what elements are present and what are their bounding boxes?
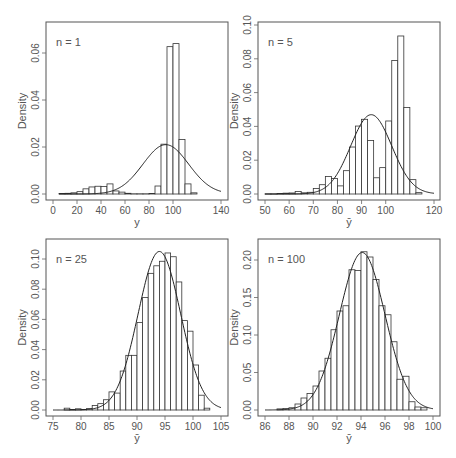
histogram-bar — [404, 107, 410, 194]
sample-size-annotation: n = 25 — [56, 253, 87, 265]
histogram-bar — [380, 168, 386, 194]
sample-size-annotation: n = 1 — [56, 36, 81, 48]
histogram-bar — [416, 193, 422, 194]
histogram-bar — [187, 331, 193, 410]
y-tick-label: 0.06 — [242, 82, 253, 102]
y-tick-label: 0.05 — [242, 362, 253, 382]
x-tick-label: 100 — [185, 421, 202, 432]
y-tick-label: 0.00 — [242, 400, 253, 420]
y-tick-label: 0.02 — [242, 150, 253, 170]
x-tick-label: 140 — [213, 205, 230, 216]
x-tick-label: 0 — [50, 205, 56, 216]
histogram-bar — [113, 191, 119, 194]
x-tick-label: 90 — [307, 421, 319, 432]
x-axis-label: ȳ — [134, 432, 140, 444]
histogram-bar — [337, 311, 343, 410]
y-tick-label: 0.06 — [30, 309, 41, 329]
y-tick-label: 0.08 — [242, 49, 253, 69]
plot-frame — [46, 22, 228, 200]
y-tick-label: 0.10 — [242, 15, 253, 35]
x-tick-label: 90 — [356, 205, 368, 216]
histogram-bar — [356, 126, 362, 194]
x-axis-label: y — [134, 216, 140, 228]
x-tick-label: 92 — [331, 421, 343, 432]
y-axis-label: Density — [228, 309, 240, 346]
x-axis-label: ȳ — [346, 432, 352, 444]
panel-n5: 5060708090100120ȳ0.000.020.040.060.080.1… — [228, 15, 443, 228]
histogram-bar — [367, 257, 373, 410]
histogram-bar — [120, 371, 126, 410]
histogram-bar — [350, 147, 356, 194]
y-tick-label: 0.04 — [30, 339, 41, 359]
panel-n25: 7580859095100105ȳ0.000.020.040.060.080.1… — [16, 239, 230, 444]
x-tick-label: 70 — [308, 205, 320, 216]
histogram-bar — [126, 355, 132, 410]
histogram-bar — [409, 402, 415, 410]
x-tick-label: 60 — [284, 205, 296, 216]
histogram-bar — [355, 271, 361, 411]
y-tick-label: 0.10 — [30, 249, 41, 269]
histogram-bar — [154, 266, 160, 410]
histogram-figure: 020406080100140y0.000.020.040.06Densityn… — [0, 0, 456, 458]
panel-n1: 020406080100140y0.000.020.040.06Densityn… — [16, 22, 230, 228]
y-tick-label: 0.00 — [30, 184, 41, 204]
histogram-bar — [379, 306, 385, 410]
histogram-bar — [415, 407, 421, 410]
x-tick-label: 50 — [259, 205, 271, 216]
histogram-bar — [331, 330, 337, 410]
x-tick-label: 100 — [425, 421, 442, 432]
histogram-bar — [119, 192, 125, 194]
y-tick-label: 0.00 — [242, 184, 253, 204]
histogram-bar — [167, 47, 173, 194]
figure-canvas: 020406080100140y0.000.020.040.06Densityn… — [0, 0, 456, 458]
y-axis-label: Density — [16, 92, 28, 129]
histogram-bar — [343, 306, 349, 410]
sample-size-annotation: n = 100 — [268, 253, 305, 265]
histogram-bar — [137, 322, 143, 410]
histogram-bar — [125, 193, 131, 194]
x-tick-label: 100 — [377, 205, 394, 216]
x-tick-label: 80 — [332, 205, 344, 216]
histogram-bar — [362, 119, 368, 194]
x-tick-label: 20 — [71, 205, 83, 216]
histogram-bar — [349, 270, 355, 410]
histogram-bar — [83, 189, 89, 194]
x-tick-label: 94 — [355, 421, 367, 432]
x-tick-label: 120 — [426, 205, 443, 216]
y-tick-label: 0.02 — [30, 370, 41, 390]
y-tick-label: 0.06 — [30, 43, 41, 63]
x-tick-label: 85 — [103, 421, 115, 432]
y-tick-label: 0.04 — [30, 90, 41, 110]
y-axis-label: Density — [16, 309, 28, 346]
histogram-bar — [374, 178, 380, 194]
histogram-bar — [421, 408, 427, 410]
y-tick-label: 0.02 — [30, 137, 41, 157]
histogram-bar — [173, 44, 179, 194]
histogram-bar — [115, 393, 121, 410]
sample-size-annotation: n = 5 — [268, 36, 293, 48]
histogram-bar — [392, 60, 398, 194]
histogram-bar — [361, 252, 367, 410]
histogram-bar — [185, 184, 191, 194]
x-tick-label: 86 — [259, 421, 271, 432]
histogram-bar — [165, 253, 171, 410]
histogram-bar — [373, 280, 379, 411]
histogram-bar — [191, 193, 197, 194]
x-tick-label: 75 — [47, 421, 59, 432]
histogram-bar — [171, 257, 177, 410]
histogram-bar — [343, 171, 349, 194]
y-tick-label: 0.10 — [242, 325, 253, 345]
x-tick-label: 88 — [283, 421, 295, 432]
x-tick-label: 100 — [165, 205, 182, 216]
x-tick-label: 96 — [379, 421, 391, 432]
panel-n100: 86889092949698100ȳ0.000.050.100.150.20De… — [228, 239, 442, 444]
histogram-bar — [89, 187, 95, 194]
histogram-bar — [161, 144, 167, 194]
x-tick-label: 80 — [75, 421, 87, 432]
x-tick-label: 98 — [403, 421, 415, 432]
y-tick-label: 0.15 — [242, 287, 253, 307]
x-tick-label: 40 — [95, 205, 107, 216]
y-tick-label: 0.08 — [30, 279, 41, 299]
histogram-bar — [204, 408, 210, 410]
x-tick-label: 105 — [213, 421, 230, 432]
